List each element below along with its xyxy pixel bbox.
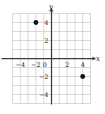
x-tick-label: −4 <box>16 61 26 69</box>
x-tick-label: 2 <box>65 61 69 69</box>
axis-name-labels: x y <box>48 3 100 63</box>
x-axis-label: x <box>96 55 100 63</box>
x-tick-label: 4 <box>81 61 85 69</box>
axis-lines <box>2 9 96 105</box>
x-tick-label: −2 <box>31 61 41 69</box>
data-point <box>34 20 39 25</box>
coordinate-plane-figure: −4−202442−2−4 x y <box>0 0 105 114</box>
y-tick-label: −4 <box>39 91 49 99</box>
coordinate-plane-svg: −4−202442−2−4 x y <box>0 0 105 114</box>
data-point <box>80 74 85 79</box>
x-tick-label: 0 <box>43 61 47 69</box>
y-axis-label: y <box>48 3 54 11</box>
y-tick-label: 2 <box>44 37 48 45</box>
y-tick-label: −2 <box>39 73 49 81</box>
y-tick-label: 4 <box>44 19 48 27</box>
